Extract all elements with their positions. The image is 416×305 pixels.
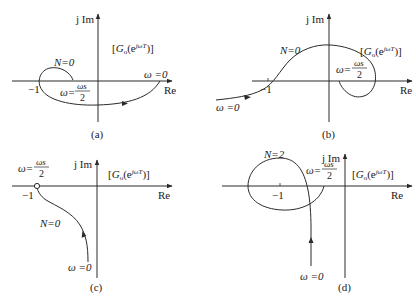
minus-one-label: −1 <box>22 189 34 201</box>
svg-text:ωs: ωs <box>36 157 46 167</box>
svg-text:ωs: ωs <box>354 58 364 68</box>
svg-text:ω=: ω= <box>18 162 33 174</box>
nyquist-curve <box>39 68 160 105</box>
open-circle-marker <box>34 183 39 188</box>
omega-zero-label: ω =0 <box>300 270 324 282</box>
nyquist-figure: j Im Re [Go(ejωT)] −1 N=0 ω =0 ω= ωs 2 (… <box>0 0 416 305</box>
omega-zero-label: ω =0 <box>144 68 168 80</box>
panel-caption: (a) <box>91 128 104 141</box>
panel-caption: (b) <box>322 128 335 141</box>
imag-axis-label: j Im <box>305 13 324 25</box>
direction-arrow <box>309 237 314 243</box>
real-axis-label: Re <box>164 84 176 96</box>
omega-half-label: ω= ωs 2 <box>60 81 90 103</box>
panel-d: j Im Re [Go(ejωT)] −1 N=2 ω =0 ω= ωs 2 (… <box>222 148 412 294</box>
encirclement-label: N=0 <box>39 217 61 229</box>
minus-one-label: −1 <box>260 83 272 95</box>
svg-text:ωs: ωs <box>324 159 334 169</box>
omega-half-label: ω= ωs 2 <box>336 58 367 80</box>
omega-half-label: ω= ωs 2 <box>18 157 49 179</box>
svg-text:2: 2 <box>80 92 85 103</box>
svg-text:ωs: ωs <box>77 81 87 91</box>
svg-text:2: 2 <box>357 69 362 80</box>
minus-one-label: −1 <box>272 189 284 201</box>
panel-caption: (c) <box>90 281 103 294</box>
panel-c: j Im Re [Go(ejωT)] −1 N=0 ω =0 ω= ωs 2 (… <box>12 157 172 294</box>
panel-b: j Im Re [Go(ejωT)] −1 N=0 ω =0 ω= ωs 2 (… <box>216 13 412 141</box>
minus-one-label: −1 <box>28 83 40 95</box>
svg-text:ω=: ω= <box>306 164 321 176</box>
svg-text:2: 2 <box>327 170 332 181</box>
transfer-function-label: [Go(ejωT)] <box>112 42 154 56</box>
omega-zero-label: ω =0 <box>68 261 92 273</box>
svg-text:2: 2 <box>39 168 44 179</box>
panel-caption: (d) <box>338 281 351 294</box>
omega-zero-label: ω =0 <box>216 101 240 113</box>
transfer-function-label: [Go(ejωT)] <box>108 168 150 182</box>
panel-a: j Im Re [Go(ejωT)] −1 N=0 ω =0 ω= ωs 2 (… <box>12 13 176 141</box>
imag-axis-label: j Im <box>73 158 92 170</box>
real-axis-label: Re <box>158 189 170 201</box>
svg-text:ω=: ω= <box>336 63 351 75</box>
imag-axis-label: j Im <box>75 13 94 25</box>
real-axis-label: Re <box>391 189 403 201</box>
real-axis-label: Re <box>400 84 412 96</box>
svg-text:ω=: ω= <box>60 86 75 98</box>
encirclement-label: N=0 <box>53 56 75 68</box>
transfer-function-label: [Go(ejωT)] <box>352 168 394 182</box>
direction-arrow <box>244 95 251 100</box>
